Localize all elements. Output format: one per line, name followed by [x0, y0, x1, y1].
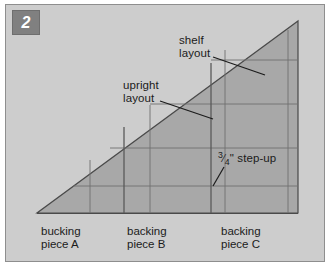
upright-layout-label: uprightlayout: [123, 79, 159, 104]
step-up-numerator: 3: [218, 149, 223, 159]
step-up-text: step-up: [234, 152, 276, 164]
caption-piece-c: backingpiece C: [221, 225, 261, 251]
caption-piece-b-line2: piece B: [127, 238, 165, 250]
caption-piece-b: backingpiece B: [127, 225, 167, 251]
shelf-layout-label-line1: shelf: [179, 34, 204, 46]
figure-number-badge: 2: [12, 10, 40, 35]
caption-piece-a-line1: bucking: [41, 225, 81, 237]
caption-piece-c-line1: backing: [221, 225, 261, 237]
caption-piece-a-line2: piece A: [41, 238, 79, 250]
triangle-profile: [37, 21, 298, 213]
upright-layout-label-line2: layout: [123, 92, 154, 104]
step-up-fraction: 3⁄4: [218, 152, 230, 164]
shelf-layout-label-line2: layout: [179, 47, 210, 59]
shelf-layout-label: shelflayout: [179, 34, 210, 59]
figure-container: 2 shelflayout uprightlayout 3⁄4" step-up…: [0, 0, 331, 270]
caption-piece-b-line1: backing: [127, 225, 167, 237]
caption-piece-a: buckingpiece A: [41, 225, 81, 251]
caption-piece-c-line2: piece C: [221, 238, 260, 250]
step-up-label: 3⁄4" step-up: [218, 148, 276, 168]
upright-layout-label-line1: upright: [123, 79, 159, 91]
